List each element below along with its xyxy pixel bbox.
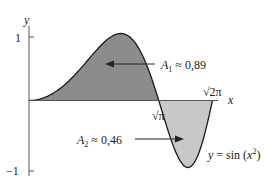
svg-text:y = sin (x2): y = sin (x2) [207,147,260,162]
area-chart: y x 1 −1 √π √2π A1 ≈ 0,89 A2 ≈ 0,46 y = … [0,0,278,179]
tick-label-neg1: −1 [6,164,19,178]
svg-text:A1 ≈ 0,89: A1 ≈ 0,89 [160,58,206,74]
y-axis-label: y [23,13,30,27]
function-label: y = sin (x2) [207,147,260,162]
svg-text:√π: √π [152,109,165,123]
x-axis-label: x [227,93,234,107]
tick-label-1: 1 [15,31,21,45]
region-a1 [29,34,159,101]
svg-text:A2 ≈ 0,46: A2 ≈ 0,46 [76,133,122,149]
sqrt-pi-label: √π [152,109,165,123]
sqrt-2pi-label: √2π [203,85,222,99]
annotation-a2: A2 ≈ 0,46 [76,133,184,149]
svg-text:√2π: √2π [203,85,222,99]
